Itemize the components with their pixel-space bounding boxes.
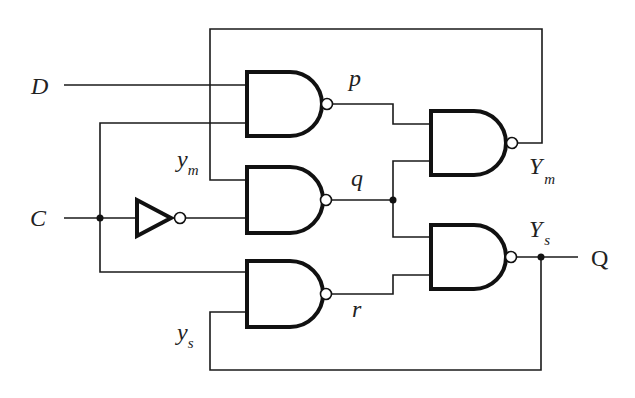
label-p: p — [347, 65, 361, 91]
label-ys-output-sub: s — [544, 232, 550, 248]
label-ys-base: y — [175, 319, 188, 345]
label-q: q — [351, 165, 363, 191]
label-q-output: Q — [591, 245, 608, 271]
junction-dot-c — [97, 215, 104, 222]
inverter-bubble — [175, 213, 186, 224]
wire-c-to-gate-p — [100, 123, 247, 272]
nand-gate-p — [247, 72, 322, 136]
junction-dot-ys — [538, 254, 545, 261]
label-ym-output-base: Y — [529, 153, 545, 179]
label-d: D — [30, 73, 48, 99]
wire-r — [332, 275, 431, 294]
label-ym-base: y — [175, 146, 188, 172]
label-ys: ys — [175, 319, 194, 351]
nand-bubble-q — [321, 195, 332, 206]
nand-gate-r — [247, 261, 323, 327]
label-ym-output-sub: m — [544, 171, 555, 187]
label-ym: ym — [175, 146, 199, 178]
label-ys-output: Ys — [529, 216, 550, 248]
label-r: r — [352, 296, 362, 322]
logic-circuit-diagram: D C p q r ym ys Ym Ys Q — [0, 0, 635, 398]
nand-gate-ys — [431, 225, 506, 289]
junction-dot-q — [390, 197, 397, 204]
label-ys-output-base: Y — [529, 216, 545, 242]
label-ym-output: Ym — [529, 153, 555, 187]
label-ys-sub: s — [188, 335, 194, 351]
label-ym-sub: m — [188, 162, 199, 178]
inverter-gate — [137, 200, 171, 236]
nand-gate-q — [247, 167, 323, 233]
nand-bubble-ym — [507, 138, 518, 149]
nand-gate-ym — [431, 111, 506, 175]
wire-q-branches — [393, 161, 431, 237]
nand-bubble-p — [322, 99, 333, 110]
label-c: C — [30, 205, 47, 231]
wire-p — [333, 104, 431, 124]
nand-bubble-ys — [506, 252, 517, 263]
nand-bubble-r — [321, 289, 332, 300]
